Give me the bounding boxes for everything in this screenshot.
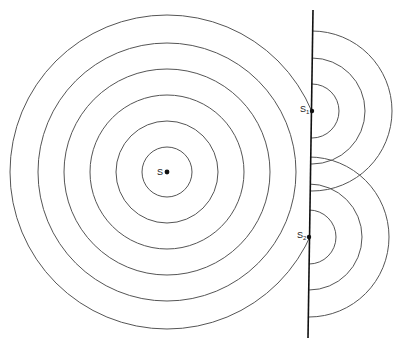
main-source-label: S: [157, 167, 163, 177]
slit-source-label-1: S1: [300, 104, 310, 115]
main-source-point: S: [157, 167, 169, 177]
slit-source-dot-2: [307, 235, 311, 239]
barrier-line: [308, 10, 313, 338]
wave-diffraction-diagram: S S1S2: [0, 0, 401, 345]
slit-source-dot-1: [310, 109, 314, 113]
slit-source-label-2: S2: [297, 230, 307, 241]
